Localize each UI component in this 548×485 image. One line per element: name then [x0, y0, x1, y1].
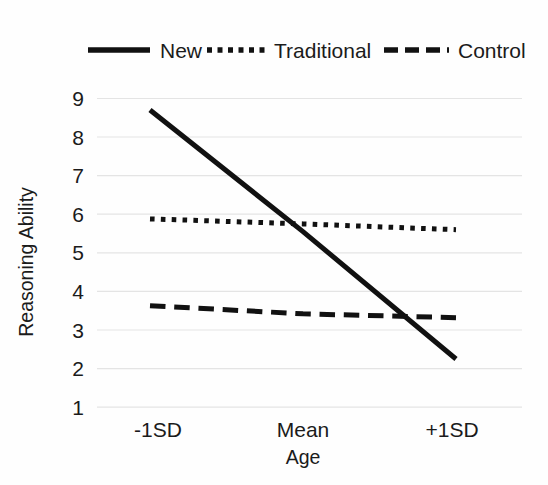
- y-tick-label: 4: [72, 280, 84, 303]
- x-axis-title: Age: [286, 446, 321, 468]
- y-tick-label: 7: [72, 164, 84, 187]
- x-tick-label-mean: Mean: [277, 418, 330, 441]
- x-tick-label-minus1sd: -1SD: [134, 418, 182, 441]
- y-axis-ticks: 9 8 7 6 5 4 3 2 1: [72, 87, 84, 419]
- series-line-traditional: [150, 219, 456, 230]
- chart-legend: New Traditional Control: [88, 39, 526, 62]
- series-line-control: [150, 306, 456, 318]
- y-tick-label: 1: [72, 396, 84, 419]
- legend-label-traditional: Traditional: [274, 39, 371, 62]
- series-group: [150, 110, 456, 359]
- y-tick-label: 5: [72, 241, 84, 264]
- gridlines: [97, 99, 522, 408]
- legend-label-new: New: [160, 39, 203, 62]
- chart-figure: New Traditional Control 9: [0, 0, 548, 485]
- y-tick-label: 8: [72, 126, 84, 149]
- x-axis-ticks: -1SD Mean +1SD: [134, 418, 478, 441]
- y-tick-label: 2: [72, 357, 84, 380]
- y-tick-label: 6: [72, 203, 84, 226]
- legend-item-new: New: [88, 39, 203, 62]
- y-axis-title: Reasoning Ability: [15, 187, 37, 337]
- y-tick-label: 9: [72, 87, 84, 110]
- legend-label-control: Control: [458, 39, 526, 62]
- chart-canvas: New Traditional Control 9: [0, 0, 548, 485]
- legend-item-traditional: Traditional: [207, 39, 371, 62]
- series-line-new: [150, 110, 456, 359]
- x-tick-label-plus1sd: +1SD: [425, 418, 478, 441]
- legend-item-control: Control: [384, 39, 526, 62]
- y-tick-label: 3: [72, 319, 84, 342]
